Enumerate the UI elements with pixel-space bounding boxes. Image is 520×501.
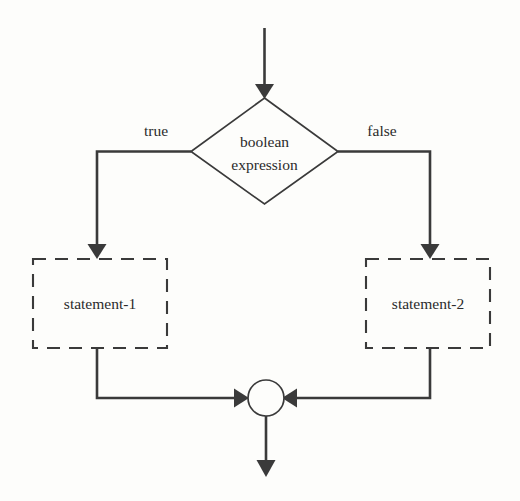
entry-arrow-head <box>255 84 274 99</box>
true-merge-line <box>97 348 236 398</box>
merge-node[interactable] <box>248 380 284 416</box>
false-merge-edge <box>282 348 430 408</box>
statement-1-label: statement-1 <box>64 295 136 312</box>
true-merge-arrow-head <box>234 389 249 408</box>
true-branch-line <box>97 152 191 247</box>
decision-diamond-shape <box>191 98 338 204</box>
edge-label-false: false <box>367 122 396 139</box>
entry-arrow <box>255 28 274 99</box>
statement-1-node[interactable]: statement-1 <box>33 259 167 348</box>
flowchart-canvas: boolean expression true false statement-… <box>0 0 520 501</box>
true-branch-edge: true <box>88 122 192 259</box>
true-branch-arrow-head <box>88 244 107 259</box>
decision-label-line2: expression <box>231 156 298 173</box>
statement-2-node[interactable]: statement-2 <box>366 259 490 348</box>
false-branch-arrow-head <box>421 244 440 259</box>
false-branch-line <box>338 152 430 247</box>
flowchart-svg: boolean expression true false statement-… <box>0 0 520 501</box>
merge-circle-shape <box>248 380 284 416</box>
exit-arrow <box>257 416 276 477</box>
true-merge-edge <box>97 348 249 408</box>
decision-node[interactable]: boolean expression <box>191 98 338 204</box>
false-merge-line <box>295 348 430 398</box>
false-branch-edge: false <box>338 122 440 259</box>
decision-label-line1: boolean <box>240 133 289 150</box>
edge-label-true: true <box>144 122 168 139</box>
statement-2-label: statement-2 <box>392 295 464 312</box>
exit-arrow-head <box>257 460 276 477</box>
